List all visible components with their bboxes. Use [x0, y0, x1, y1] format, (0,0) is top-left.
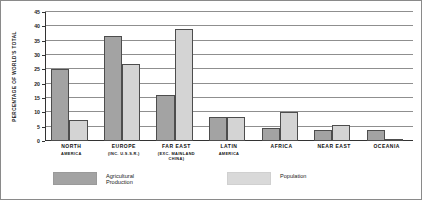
x-axis-label: NORTHAMERICA [45, 143, 98, 156]
legend-swatch-agri [53, 172, 97, 185]
bar-agricultural[interactable] [367, 130, 385, 141]
y-axis-tick-label: 25 [34, 66, 45, 72]
bar-group [308, 12, 361, 141]
y-axis-title-label: PERCENTAGE OF WORLD'S TOTAL [12, 31, 17, 121]
bar-group [203, 12, 256, 141]
legend-label: Population [280, 172, 306, 179]
bar-group [98, 12, 151, 141]
x-axis-label-main: AFRICA [255, 143, 308, 151]
bar-agricultural[interactable] [314, 130, 332, 141]
bar-agricultural[interactable] [51, 69, 69, 141]
bar-group [45, 12, 98, 141]
x-axis-label: LATINAMERICA [203, 143, 256, 156]
x-axis-label-main: NORTH [45, 143, 98, 151]
legend-item[interactable]: Agricultural Production [53, 172, 134, 186]
bars-layer [45, 12, 413, 141]
plot-area: 051015202530354045 [45, 12, 413, 141]
x-axis-label-main: OCEANIA [360, 143, 413, 151]
x-axis-label-sub: AMERICA [203, 151, 256, 157]
x-axis-label-sub: (INC. U.S.S.R.) [98, 151, 151, 157]
x-axis-label: OCEANIA [360, 143, 413, 151]
bar-population[interactable] [122, 64, 140, 141]
x-axis-label: FAR EAST(EXC. MAINLANDCHINA) [150, 143, 203, 162]
x-axis-label-main: EUROPE [98, 143, 151, 151]
x-axis-label: EUROPE(INC. U.S.S.R.) [98, 143, 151, 156]
x-axis-label-sub2: CHINA) [150, 156, 203, 162]
bar-agricultural[interactable] [262, 128, 280, 141]
x-axis-label: NEAR EAST [308, 143, 361, 151]
bar-agricultural[interactable] [104, 36, 122, 141]
y-axis-tick-label: 30 [34, 52, 45, 58]
x-axis-label: AFRICA [255, 143, 308, 151]
x-axis-label-main: NEAR EAST [308, 143, 361, 151]
bar-population[interactable] [385, 139, 403, 141]
y-axis-tick-label: 35 [34, 38, 45, 44]
x-axis-label-sub: AMERICA [45, 151, 98, 157]
bar-agricultural[interactable] [156, 95, 174, 141]
legend-item[interactable]: Population [227, 172, 306, 185]
bar-group [150, 12, 203, 141]
bar-agricultural[interactable] [209, 117, 227, 141]
y-axis-tick-label: 15 [34, 95, 45, 101]
bar-group [360, 12, 413, 141]
y-axis-tick-label: 5 [37, 124, 45, 130]
x-axis-label-main: FAR EAST [150, 143, 203, 151]
y-axis-tick-label: 45 [34, 9, 45, 15]
legend-label: Agricultural Production [106, 172, 134, 186]
y-axis-tick-label: 0 [37, 138, 45, 144]
bar-population[interactable] [280, 112, 298, 141]
bar-population[interactable] [69, 120, 87, 142]
x-axis-labels: NORTHAMERICAEUROPE(INC. U.S.S.R.)FAR EAS… [45, 143, 413, 173]
legend-swatch-pop [227, 172, 271, 185]
chart-legend: Agricultural ProductionPopulation [45, 172, 413, 194]
y-axis-tick-label: 20 [34, 81, 45, 87]
bar-population[interactable] [227, 117, 245, 141]
bar-population[interactable] [332, 125, 350, 141]
bar-population[interactable] [175, 29, 193, 141]
y-axis-tick-label: 10 [34, 109, 45, 115]
bar-group [255, 12, 308, 141]
y-axis-title: PERCENTAGE OF WORLD'S TOTAL [7, 1, 21, 151]
x-axis-label-main: LATIN [203, 143, 256, 151]
y-axis-tick-label: 40 [34, 23, 45, 29]
bar-chart-figure: PERCENTAGE OF WORLD'S TOTAL 051015202530… [0, 0, 422, 200]
